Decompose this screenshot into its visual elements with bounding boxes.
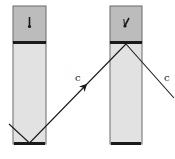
left-light-clock: [13, 6, 46, 145]
light-clock-diagram: c c: [0, 0, 175, 159]
right-bottom-mirror: [111, 142, 141, 145]
beam-speed-label-c-1: c: [75, 72, 81, 83]
left-top-mirror: [13, 41, 46, 44]
left-clock-tube: [13, 42, 46, 144]
beam-speed-label-c-2: c: [164, 72, 170, 83]
right-light-clock: [110, 6, 142, 145]
right-top-mirror: [110, 41, 142, 44]
